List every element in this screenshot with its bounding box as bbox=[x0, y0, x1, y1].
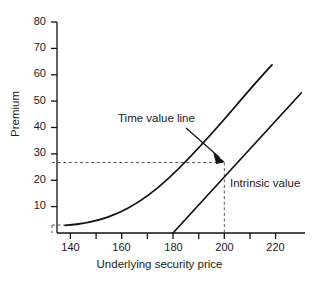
y-tick-label-60: 60 bbox=[18, 67, 46, 79]
annotation-intrinsic-value: Intrinsic value bbox=[230, 177, 300, 189]
premium-vs-underlying-price-chart: 80 70 60 50 40 30 20 10 140 160 180 200 … bbox=[0, 0, 319, 284]
y-tick-label-80: 80 bbox=[18, 15, 46, 27]
x-axis bbox=[57, 233, 305, 239]
y-tick-label-50: 50 bbox=[18, 94, 46, 106]
annotation-time-value-line: Time value line bbox=[118, 112, 195, 124]
y-axis bbox=[51, 22, 57, 233]
x-tick-label-140: 140 bbox=[52, 241, 89, 253]
time-value-line-curve bbox=[65, 65, 272, 226]
x-tick-label-180: 180 bbox=[155, 241, 192, 253]
y-tick-label-10: 10 bbox=[18, 199, 46, 211]
x-axis-title: Underlying security price bbox=[0, 258, 319, 270]
y-tick-label-20: 20 bbox=[18, 173, 46, 185]
time-value-arrow bbox=[186, 128, 224, 164]
y-tick-label-30: 30 bbox=[18, 146, 46, 158]
x-tick-label-220: 220 bbox=[257, 241, 294, 253]
x-tick-label-200: 200 bbox=[206, 241, 243, 253]
guide-lines bbox=[52, 163, 224, 234]
y-tick-label-40: 40 bbox=[18, 120, 46, 132]
x-tick-label-160: 160 bbox=[103, 241, 140, 253]
y-axis-title: Premium bbox=[9, 79, 21, 149]
y-tick-label-70: 70 bbox=[18, 41, 46, 53]
